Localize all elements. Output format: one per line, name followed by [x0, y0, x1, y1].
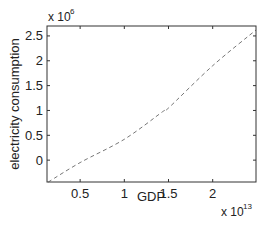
x-tick-label: 0.5 — [71, 186, 89, 201]
y-tick-label: 1 — [36, 103, 43, 118]
x-tick-label: 1 — [121, 186, 128, 201]
y-tick-label: 0 — [36, 153, 43, 168]
x-axis-label: GDP — [137, 189, 165, 204]
y-tick-label: 2 — [36, 53, 43, 68]
y-tick-label: 2.5 — [25, 28, 43, 43]
x-multiplier-exponent: 13 — [243, 202, 252, 211]
line-chart: 00.511.522.5 0.511.52 electricity consum… — [0, 0, 271, 228]
x-multiplier-label: x 10 — [221, 205, 244, 219]
y-multiplier-label: x 10 — [48, 10, 71, 24]
y-axis-label: electricity consumption — [7, 38, 22, 170]
plot-frame — [47, 26, 256, 182]
y-axis-ticks: 00.511.522.5 — [25, 28, 256, 167]
x-axis-ticks: 0.511.52 — [71, 26, 216, 201]
y-multiplier-exponent: 6 — [70, 7, 75, 16]
data-series-line — [48, 30, 256, 182]
y-tick-label: 1.5 — [25, 78, 43, 93]
x-tick-label: 2 — [209, 186, 216, 201]
y-tick-label: 0.5 — [25, 128, 43, 143]
